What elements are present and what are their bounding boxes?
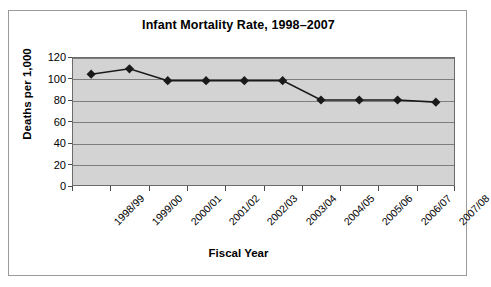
y-tick-mark (68, 57, 72, 58)
y-tick-mark (68, 164, 72, 165)
chart-title: Infant Mortality Rate, 1998–2007 (0, 18, 477, 32)
x-tick-label: 2006/07 (418, 192, 453, 227)
x-tick-label: 2007/08 (456, 192, 491, 227)
data-point-marker (431, 98, 440, 107)
x-axis: 1998/991999/002000/012001/022002/032003/… (0, 186, 477, 242)
y-tick-label: 80 (54, 94, 66, 106)
x-tick-label: 2001/02 (226, 192, 261, 227)
x-tick-label: 2005/06 (379, 192, 414, 227)
y-axis: 020406080100120 (36, 57, 72, 186)
data-point-marker (240, 76, 249, 85)
y-tick-label: 100 (48, 73, 66, 85)
data-point-marker (316, 95, 325, 104)
data-point-marker (163, 76, 172, 85)
y-axis-title: Deaths per 1,000 (21, 29, 33, 159)
y-tick-label: 120 (48, 51, 66, 63)
y-tick-mark (68, 143, 72, 144)
x-tick-label: 1998/99 (111, 192, 146, 227)
data-point-marker (278, 76, 287, 85)
y-tick-label: 60 (54, 116, 66, 128)
x-tick-label: 2004/05 (341, 192, 376, 227)
x-tick-label: 1999/00 (150, 192, 185, 227)
x-axis-title: Fiscal Year (0, 247, 477, 259)
data-point-marker (393, 95, 402, 104)
series-line (91, 69, 436, 102)
y-tick-mark (68, 100, 72, 101)
data-point-marker (125, 64, 134, 73)
series-line-chart (72, 57, 455, 186)
y-tick-mark (68, 121, 72, 122)
data-point-marker (355, 95, 364, 104)
data-point-marker (87, 70, 96, 79)
y-tick-label: 40 (54, 137, 66, 149)
x-tick-label: 2002/03 (264, 192, 299, 227)
x-tick-label: 2003/04 (303, 192, 338, 227)
x-tick-label: 2000/01 (188, 192, 223, 227)
y-tick-label: 20 (54, 159, 66, 171)
data-point-marker (201, 76, 210, 85)
y-tick-mark (68, 78, 72, 79)
